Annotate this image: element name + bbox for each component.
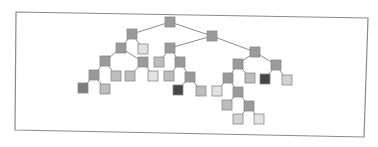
tree-node — [89, 70, 99, 80]
tree-node — [222, 100, 232, 110]
tree-node — [165, 17, 175, 27]
tree-node — [233, 87, 243, 97]
tree-diagram — [0, 0, 378, 147]
tree-node — [233, 59, 243, 69]
tree-node — [100, 56, 110, 66]
tree-node — [196, 86, 206, 96]
tree-node — [125, 71, 135, 81]
tree-node — [245, 73, 255, 83]
tree-node — [138, 57, 148, 67]
tree-node — [260, 74, 270, 84]
tree-node — [250, 47, 260, 57]
tree-node — [111, 71, 121, 81]
tree-node — [138, 44, 148, 54]
tree-node — [78, 83, 88, 93]
tree-node — [173, 85, 183, 95]
tree-node — [185, 72, 195, 82]
tree-node — [165, 43, 175, 53]
tree-node — [164, 71, 174, 81]
tree-node — [271, 60, 281, 70]
tree-node — [244, 101, 254, 111]
tree-node — [282, 75, 292, 85]
tree-node — [175, 57, 185, 67]
tree-node — [254, 114, 264, 124]
tree-node — [148, 71, 158, 81]
tree-node — [116, 43, 126, 53]
tree-node — [212, 86, 222, 96]
tree-node — [223, 73, 233, 83]
tree-node — [233, 114, 243, 124]
tree-node — [100, 84, 110, 94]
tree-node — [154, 57, 164, 67]
tree-node — [207, 31, 217, 41]
tree-diagram-canvas — [0, 0, 378, 147]
tree-node — [127, 29, 137, 39]
